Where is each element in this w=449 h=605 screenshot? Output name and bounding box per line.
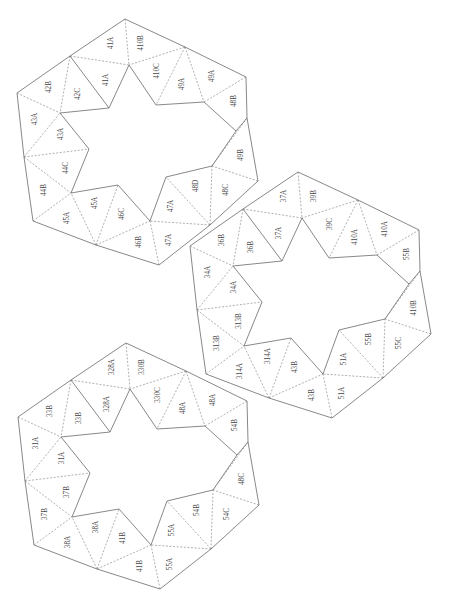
- fold-line: [233, 209, 243, 266]
- triangle-label: 55C: [395, 337, 403, 349]
- fold-line: [383, 319, 385, 378]
- triangle-label: 39B: [310, 190, 318, 202]
- triangle-label: 31A: [58, 451, 66, 464]
- triangle-label: 55B: [403, 248, 411, 260]
- inner-edge: [72, 473, 90, 517]
- inner-edge: [71, 149, 89, 193]
- outer-edge: [383, 334, 431, 378]
- triangle-label: 55A: [166, 557, 174, 570]
- fold-line: [150, 221, 210, 225]
- fold-line: [298, 172, 302, 218]
- inner-edge: [130, 389, 157, 429]
- inner-edge: [110, 389, 130, 432]
- inner-edge: [166, 166, 212, 177]
- triangle-label: 34A: [204, 265, 212, 278]
- outer-edge: [71, 343, 126, 380]
- outer-edge: [211, 505, 259, 549]
- inner-edge: [129, 65, 156, 105]
- fold-line: [210, 166, 212, 225]
- triangle-label: 38A: [64, 535, 72, 548]
- triangle-label: 313B: [213, 335, 221, 351]
- inner-edge: [213, 455, 237, 490]
- outer-edge: [247, 401, 248, 442]
- triangle-label: 37A: [280, 189, 288, 202]
- fold-line: [323, 374, 383, 378]
- triangle-label: 34A: [230, 280, 238, 293]
- inner-edge: [339, 319, 385, 330]
- triangle-label: 48B: [230, 95, 238, 107]
- fold-line: [71, 380, 130, 389]
- outer-edge: [210, 181, 258, 225]
- outer-edge: [298, 172, 358, 200]
- inner-edge: [212, 131, 236, 166]
- fold-line: [211, 490, 213, 549]
- triangle-label: 33B: [75, 412, 83, 424]
- triangle-label: 48C: [238, 473, 246, 485]
- outer-edge: [246, 77, 247, 118]
- triangle-label: 410A: [381, 220, 389, 237]
- triangle-label: 49A: [208, 69, 216, 82]
- star-middle-right: 37A39B39C410A410A55B410B55C55B51A51A43B4…: [190, 172, 431, 418]
- triangle-label: 46C: [118, 208, 126, 220]
- triangle-label: 37A: [275, 226, 283, 239]
- fold-line: [18, 417, 61, 437]
- cut-edge: [409, 271, 420, 284]
- fold-line: [190, 246, 233, 266]
- fold-line: [24, 149, 89, 157]
- triangle-label: 39C: [326, 218, 334, 230]
- inner-edge: [244, 302, 262, 346]
- triangle-label: 43B: [308, 389, 316, 401]
- outer-edge: [269, 398, 332, 418]
- triangle-label: 48A: [179, 401, 187, 414]
- triangle-label: 410C: [153, 63, 161, 79]
- fold-line: [150, 221, 159, 265]
- triangle-label: 44B: [40, 184, 48, 196]
- inner-edge: [302, 218, 329, 258]
- fold-line: [269, 338, 291, 398]
- outer-edge: [248, 442, 259, 505]
- fold-line: [96, 185, 118, 245]
- triangle-label: 45A: [63, 211, 71, 224]
- outer-edge: [17, 93, 24, 157]
- fold-line: [243, 209, 302, 218]
- fold-line: [70, 56, 129, 65]
- triangle-label: 44C: [62, 162, 70, 174]
- triangle-label: 55A: [168, 523, 176, 536]
- cut-edge: [236, 118, 247, 131]
- outer-edge: [18, 417, 25, 481]
- fold-line: [126, 343, 130, 389]
- triangle-label: 47A: [167, 199, 175, 212]
- fold-line: [25, 473, 90, 481]
- triangle-label: 314A: [236, 362, 244, 379]
- star-top-left: 41A410B410C49A49A48B49B48C48D47A47A46B46…: [17, 19, 258, 265]
- fold-line: [17, 93, 60, 113]
- fold-line: [24, 113, 60, 157]
- outer-edge: [419, 230, 420, 271]
- triangle-label: 328A: [108, 358, 116, 375]
- outer-edge: [126, 343, 186, 371]
- triangle-label: 38A: [92, 520, 100, 533]
- inner-edge: [244, 338, 291, 346]
- fold-line: [25, 437, 61, 481]
- fold-line: [213, 490, 259, 505]
- triangle-label: 41B: [136, 560, 144, 572]
- fold-line: [151, 545, 160, 589]
- triangle-label: 51A: [340, 352, 348, 365]
- triangle-label: 54C: [223, 508, 231, 520]
- triangle-label: 33B: [46, 405, 54, 417]
- origami-net-diagram: 41A410B410C49A49A48B49B48C48D47A47A46B46…: [0, 0, 449, 605]
- triangle-label: 48A: [209, 393, 217, 406]
- triangle-label: 43B: [291, 361, 299, 373]
- outer-edge: [243, 172, 298, 209]
- triangle-label: 48D: [192, 180, 200, 192]
- triangle-label: 410B: [137, 35, 145, 51]
- triangle-label: 42C: [74, 88, 82, 100]
- triangle-label: 41A: [102, 73, 110, 86]
- triangle-label: 314A: [264, 347, 272, 364]
- triangle-label: 49A: [178, 77, 186, 90]
- triangle-label: 46B: [135, 236, 143, 248]
- triangle-label: 54B: [231, 419, 239, 431]
- fold-line: [212, 166, 258, 181]
- outer-edge: [17, 56, 70, 93]
- fold-line: [60, 56, 70, 113]
